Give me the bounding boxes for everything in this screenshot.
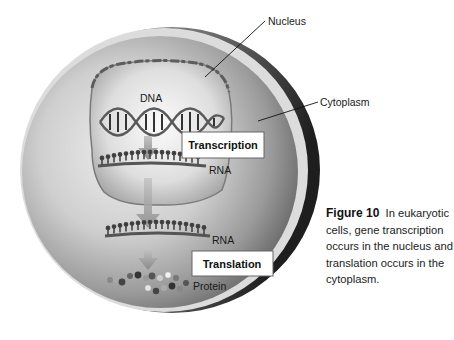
nucleotide-base: [148, 221, 151, 224]
nucleotide-base: [136, 221, 139, 224]
nucleotide-base: [178, 222, 181, 225]
nucleotide-base: [142, 221, 145, 224]
nucleotide-base: [118, 153, 121, 156]
dna-label: DNA: [140, 92, 162, 104]
nucleotide-base: [118, 224, 121, 227]
nucleotide-base: [178, 152, 181, 155]
nucleotide-base: [112, 225, 115, 228]
nucleotide-base: [124, 223, 127, 226]
nucleotide-base: [160, 220, 163, 223]
nucleotide-base: [142, 151, 145, 154]
nucleotide-base: [148, 150, 151, 153]
cell-diagram: DNA RNA Transcription RNA Translation Pr…: [0, 0, 454, 340]
nucleotide-base: [166, 221, 169, 224]
protein-label: Protein: [193, 280, 226, 292]
nucleotide-base: [184, 223, 187, 226]
nucleotide-base: [202, 226, 205, 229]
nucleus-label: Nucleus: [268, 15, 306, 27]
cytoplasm-label: Cytoplasm: [320, 96, 370, 108]
nucleotide-base: [106, 226, 109, 229]
figure-number: Figure 10: [326, 206, 379, 220]
figure-caption: Figure 10 In eukaryotic cells, gene tran…: [326, 205, 454, 288]
nucleotide-base: [130, 151, 133, 154]
nucleotide-base: [172, 221, 175, 224]
nucleotide-base: [166, 151, 169, 154]
rna-label-nucleus: RNA: [209, 164, 231, 176]
nucleotide-base: [190, 223, 193, 226]
nucleotide-base: [106, 155, 109, 158]
nucleotide-base: [154, 150, 157, 153]
nucleotide-base: [112, 154, 115, 157]
nucleotide-base: [196, 225, 199, 228]
nucleotide-base: [100, 156, 103, 159]
transcription-label: Transcription: [188, 139, 258, 151]
nucleotide-base: [160, 151, 163, 154]
nucleotide-base: [130, 222, 133, 225]
nucleotide-base: [136, 151, 139, 154]
rna-label-cytoplasm: RNA: [212, 234, 234, 246]
nucleotide-base: [124, 152, 127, 155]
translation-label: Translation: [203, 258, 262, 270]
nucleotide-base: [154, 220, 157, 223]
nucleotide-base: [172, 152, 175, 155]
